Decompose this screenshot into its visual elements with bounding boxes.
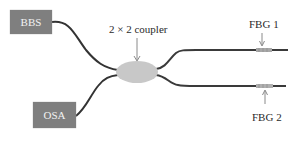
- coupler-arrow-icon: [134, 38, 140, 61]
- coupler-label: 2 × 2 coupler: [109, 23, 167, 35]
- fbg1-label: FBG 1: [249, 18, 279, 30]
- fiber-osa-to-coupler: [76, 75, 118, 116]
- bbs-source-box: BBS: [10, 10, 52, 34]
- coupler-body: [116, 61, 158, 83]
- fbg2-arrow-icon: [263, 90, 268, 104]
- osa-analyzer-box: OSA: [33, 102, 76, 128]
- bbs-label: BBS: [21, 16, 42, 28]
- fbg1-grating: [256, 48, 272, 52]
- osa-label: OSA: [43, 109, 65, 121]
- fbg2-label: FBG 2: [252, 111, 282, 123]
- fiber-output-upper: [156, 50, 288, 69]
- fbg2-grating: [256, 84, 273, 88]
- fbg1-arrow-icon: [260, 33, 265, 46]
